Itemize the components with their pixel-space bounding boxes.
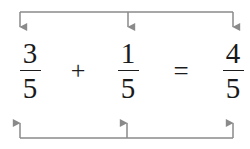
plus-operator: + — [67, 36, 89, 106]
fraction-stack: 4 5 — [223, 39, 244, 104]
numerator: 1 — [121, 39, 136, 70]
bottom-bracket-group — [20, 123, 233, 138]
fraction-first-addend: 3 5 — [8, 36, 52, 106]
numerator: 3 — [23, 39, 38, 70]
fraction-sum: 4 5 — [211, 36, 250, 106]
denominator: 5 — [226, 71, 241, 103]
numerator: 4 — [226, 39, 241, 70]
fraction-second-addend: 1 5 — [106, 36, 150, 106]
equals-operator: = — [169, 36, 193, 106]
top-bracket-group — [20, 12, 233, 27]
equation-row: 3 5 + 1 5 = 4 5 — [0, 36, 250, 106]
fraction-equation-diagram: 3 5 + 1 5 = 4 5 — [0, 0, 250, 149]
denominator: 5 — [23, 71, 38, 103]
fraction-stack: 1 5 — [118, 39, 139, 104]
denominator: 5 — [121, 71, 136, 103]
fraction-stack: 3 5 — [20, 39, 41, 104]
